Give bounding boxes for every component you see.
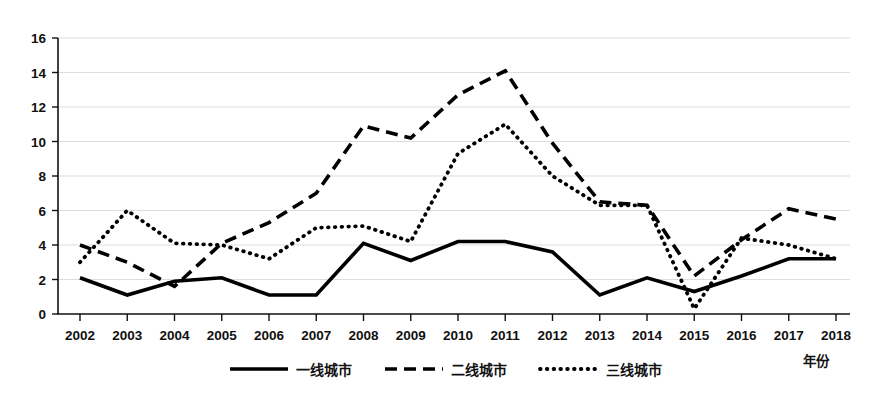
x-axis-tick-label: 2014 [632, 328, 663, 343]
x-axis-tick-label: 2011 [491, 328, 521, 343]
x-axis-tick-label: 2016 [726, 328, 757, 343]
y-axis-tick-label: 4 [38, 238, 46, 253]
x-axis-tick-label: 2012 [537, 328, 567, 343]
y-axis-tick-labels: 0246810121416 [31, 31, 47, 322]
chart-legend: 一线城市二线城市三线城市 [230, 362, 662, 378]
y-axis-tick-label: 10 [31, 135, 46, 150]
chart-canvas: 0246810121416 20022003200420052006200720… [0, 0, 878, 410]
legend-label: 三线城市 [606, 362, 662, 378]
data-series-group [80, 71, 836, 309]
y-axis-tick-label: 2 [38, 273, 46, 288]
y-axis-tick-label: 12 [31, 100, 46, 115]
x-axis-title: 年份 [803, 353, 830, 369]
y-axis-tick-label: 6 [38, 204, 46, 219]
x-axis-tick-label: 2018 [821, 328, 852, 343]
series-line-dashed [80, 71, 836, 287]
y-axis-tick-label: 8 [38, 169, 46, 184]
x-axis-tick-label: 2006 [254, 328, 285, 343]
y-axis-tick-label: 14 [31, 66, 47, 81]
x-axis-tick-label: 2009 [396, 328, 426, 343]
x-axis-tick-labels: 2002200320042005200620072008200920102011… [65, 328, 852, 343]
x-axis-tick-label: 2007 [301, 328, 331, 343]
y-axis-tick-label: 0 [38, 307, 46, 322]
line-chart: 0246810121416 20022003200420052006200720… [0, 0, 878, 410]
x-axis-tick-label: 2013 [585, 328, 616, 343]
x-axis-tick-label: 2002 [65, 328, 95, 343]
x-axis-tick-label: 2015 [679, 328, 710, 343]
legend-label: 一线城市 [296, 362, 352, 378]
x-axis-tick-label: 2008 [348, 328, 379, 343]
x-axis-tick-label: 2010 [443, 328, 473, 343]
y-axis-tick-label: 16 [31, 31, 47, 46]
x-axis-tick-label: 2017 [774, 328, 804, 343]
legend-label: 二线城市 [451, 362, 507, 378]
x-axis-tick-label: 2003 [112, 328, 143, 343]
x-axis-tick-label: 2004 [159, 328, 190, 343]
x-axis-tick-label: 2005 [207, 328, 238, 343]
